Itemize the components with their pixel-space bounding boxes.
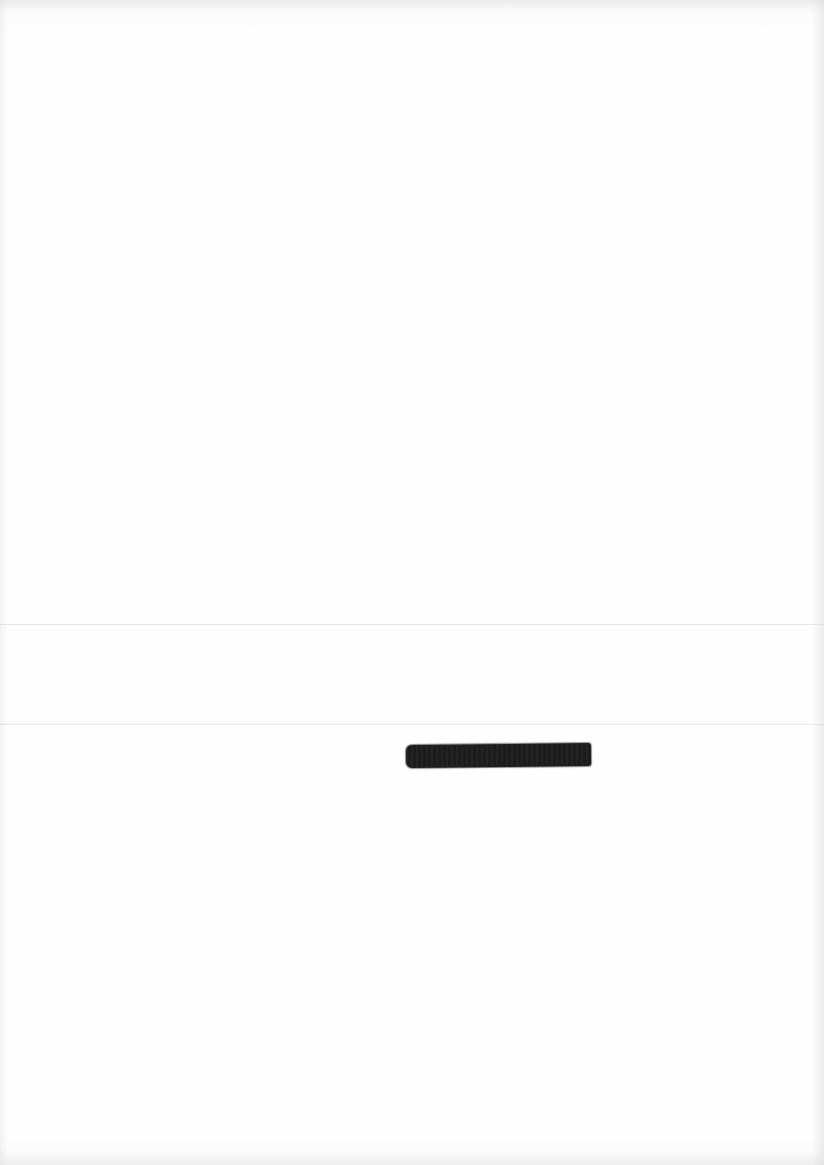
document-page: redacted (0, 0, 824, 1165)
fold-line (0, 624, 824, 625)
scan-noise-bottom (0, 1137, 824, 1165)
scan-edge-right (812, 0, 824, 1165)
scan-noise-top (0, 0, 824, 30)
scan-edge-left (0, 0, 8, 1165)
fold-line (0, 724, 824, 725)
redaction-bar: redacted (406, 743, 591, 768)
redaction-label: redacted (406, 745, 407, 746)
